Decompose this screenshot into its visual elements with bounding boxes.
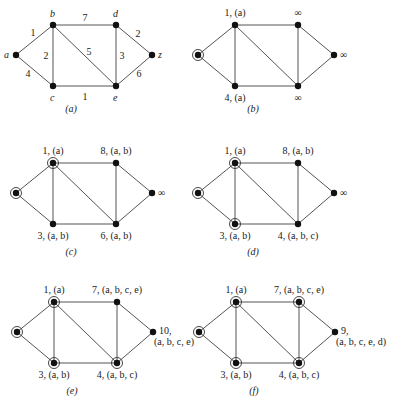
edge-b-e — [235, 25, 298, 86]
edge-a-c — [16, 193, 53, 224]
vertex-label-z2: (a, b, c, e, d) — [336, 336, 386, 348]
dijkstra-figure: 142751326abcdez(a)1, (a)4, (a)∞∞∞(b)1, (… — [0, 0, 407, 405]
vertex-z — [150, 329, 156, 335]
vertex-label-z: 10, — [159, 325, 172, 336]
vertex-label-e: 6, (a, b) — [100, 230, 131, 242]
edge-a-b — [16, 163, 53, 193]
panel-caption: (c) — [65, 246, 77, 258]
vertex-name-d: d — [113, 8, 119, 19]
edge-d-z — [117, 302, 153, 332]
vertex-e — [295, 83, 301, 89]
edge-e-z — [116, 193, 152, 224]
vertex-b — [50, 160, 56, 166]
edge-d-z — [299, 302, 335, 332]
vertex-c — [50, 221, 56, 227]
edge-weight-b-e: 5 — [87, 46, 92, 57]
vertex-d — [295, 22, 301, 28]
vertex-z — [332, 329, 338, 335]
edge-b-e — [235, 163, 298, 224]
vertex-label-z: ∞ — [340, 49, 347, 60]
vertex-b — [232, 22, 238, 28]
vertex-c — [50, 83, 56, 89]
edge-weight-c-e: 1 — [83, 91, 88, 102]
vertex-label-b: 1, (a) — [224, 7, 245, 19]
vertex-label-d: 8, (a, b) — [282, 145, 313, 157]
vertex-c — [51, 360, 57, 366]
edge-weight-a-c: 4 — [26, 68, 31, 79]
vertex-a — [14, 329, 20, 335]
edge-d-z — [298, 25, 334, 55]
vertex-label-c: 4, (a) — [224, 92, 245, 104]
vertex-label-e: ∞ — [294, 92, 301, 103]
vertex-b — [51, 299, 57, 305]
edge-weight-d-z: 2 — [136, 28, 141, 39]
edge-weight-b-c: 2 — [44, 50, 49, 61]
graph-panel-a: 142751326abcdez(a) — [4, 8, 162, 115]
vertex-z — [331, 190, 337, 196]
vertex-c — [232, 83, 238, 89]
vertex-label-d: 7, (a, b, c, e) — [274, 284, 324, 296]
graph-panel-b: 1, (a)4, (a)∞∞∞(b) — [193, 7, 348, 115]
vertex-label-d: ∞ — [294, 7, 301, 18]
edge-a-c — [198, 55, 235, 86]
vertex-e — [296, 360, 302, 366]
vertex-c — [232, 221, 238, 227]
edge-a-b — [198, 163, 235, 193]
edge-weight-e-z: 6 — [137, 68, 142, 79]
graph-panel-f: 1, (a)3, (a, b)7, (a, b, c, e)4, (a, b, … — [194, 284, 386, 397]
edge-a-c — [198, 193, 235, 224]
edge-e-z — [298, 193, 334, 224]
edge-a-c — [199, 332, 236, 363]
edge-b-e — [53, 25, 116, 86]
vertex-b — [233, 299, 239, 305]
vertex-e — [113, 221, 119, 227]
vertex-a — [13, 190, 19, 196]
panel-caption: (a) — [65, 103, 77, 115]
vertex-name-e: e — [113, 92, 118, 103]
vertex-z — [149, 190, 155, 196]
vertex-a — [195, 190, 201, 196]
vertex-d — [114, 299, 120, 305]
vertex-z — [149, 52, 155, 58]
vertex-e — [114, 360, 120, 366]
vertex-label-e: 4, (a, b, c) — [279, 369, 320, 381]
edge-weight-d-e: 3 — [120, 50, 125, 61]
edge-weight-a-b: 1 — [31, 27, 36, 38]
edge-e-z — [117, 332, 153, 363]
graph-panel-e: 1, (a)3, (a, b)7, (a, b, c, e)4, (a, b, … — [12, 284, 194, 397]
graph-panel-c: 1, (a)3, (a, b)8, (a, b)6, (a, b)∞(c) — [11, 145, 166, 258]
vertex-label-e: 4, (a, b, c) — [97, 369, 138, 381]
vertex-d — [296, 299, 302, 305]
panel-caption: (e) — [66, 385, 78, 397]
vertex-d — [295, 160, 301, 166]
vertex-name-b: b — [50, 8, 55, 19]
vertex-label-z2: (a, b, c, e) — [154, 336, 194, 348]
vertex-e — [295, 221, 301, 227]
vertex-label-c: 3, (a, b) — [37, 230, 68, 242]
edge-e-z — [299, 332, 335, 363]
vertex-label-b: 1, (a) — [43, 284, 64, 296]
vertex-label-b: 1, (a) — [224, 145, 245, 157]
vertex-label-c: 3, (a, b) — [38, 369, 69, 381]
edge-a-b — [17, 302, 54, 332]
vertex-b — [50, 22, 56, 28]
vertex-label-c: 3, (a, b) — [220, 369, 251, 381]
vertex-label-d: 8, (a, b) — [100, 145, 131, 157]
vertex-name-a: a — [4, 49, 9, 60]
vertex-label-z: ∞ — [340, 187, 347, 198]
edge-b-e — [236, 302, 299, 363]
vertex-z — [331, 52, 337, 58]
edge-d-z — [298, 163, 334, 193]
edge-weight-b-d: 7 — [83, 12, 88, 23]
vertex-label-b: 1, (a) — [42, 145, 63, 157]
edge-a-c — [17, 332, 54, 363]
edge-a-b — [199, 302, 236, 332]
vertex-label-b: 1, (a) — [225, 284, 246, 296]
vertex-a — [13, 52, 19, 58]
vertex-a — [196, 329, 202, 335]
edge-b-e — [54, 302, 117, 363]
panel-caption: (b) — [247, 103, 259, 115]
edge-e-z — [298, 55, 334, 86]
edge-b-e — [53, 163, 116, 224]
vertex-name-z: z — [157, 49, 162, 60]
